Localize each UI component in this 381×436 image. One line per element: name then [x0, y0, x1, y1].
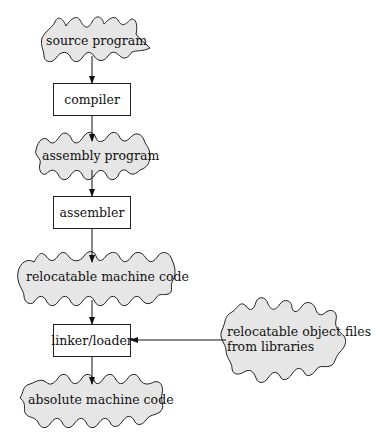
box-compiler: compiler [53, 83, 131, 116]
label-assembly-program: assembly program [42, 149, 159, 163]
label-source-program: source program [46, 34, 147, 48]
box-linker-loader: linker/loader [53, 324, 131, 357]
box-assembler: assembler [53, 196, 131, 229]
label-absolute-machine-code: absolute machine code [28, 393, 174, 407]
compiler-pipeline-diagram: source program assembly program relocata… [0, 0, 381, 436]
label-libraries-line1: relocatable object files [227, 325, 371, 339]
label-libraries-line2: from libraries [227, 340, 314, 354]
label-relocatable-machine-code: relocatable machine code [26, 270, 189, 284]
